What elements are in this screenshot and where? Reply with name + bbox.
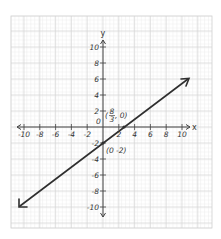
y-tick-label: 4 bbox=[94, 91, 99, 100]
svg-text:3: 3 bbox=[110, 115, 115, 124]
y-axis-label: y bbox=[101, 29, 106, 38]
x-tick-label: 4 bbox=[132, 130, 137, 139]
x-tick-label: 6 bbox=[148, 130, 153, 139]
svg-text:, 0): , 0) bbox=[115, 111, 128, 120]
y-tick-label: 2 bbox=[94, 107, 99, 116]
x-axis-label: x bbox=[192, 123, 197, 132]
y-tick-label: 6 bbox=[94, 75, 99, 84]
y-tick-label: -10 bbox=[87, 203, 99, 212]
y-intercept-label: (0 -2) bbox=[106, 146, 127, 155]
x-tick-label: 8 bbox=[164, 130, 169, 139]
x-tick-label: -10 bbox=[18, 130, 30, 139]
y-tick-label: 8 bbox=[94, 59, 99, 68]
x-intercept-point bbox=[122, 125, 125, 128]
y-tick-label: -4 bbox=[92, 155, 100, 164]
origin-label: 0 bbox=[96, 117, 101, 126]
x-tick-label: -2 bbox=[83, 130, 91, 139]
y-intercept-point bbox=[101, 141, 104, 144]
x-tick-label: 10 bbox=[177, 130, 187, 139]
x-tick-label: -4 bbox=[68, 130, 76, 139]
y-tick-label: 10 bbox=[89, 43, 99, 52]
x-tick-label: -8 bbox=[36, 130, 44, 139]
x-tick-label: -6 bbox=[52, 130, 60, 139]
y-tick-label: -6 bbox=[92, 171, 100, 180]
coordinate-graph: -10-8-6-4-2246810108642-2-4-6-8-10 x y 0… bbox=[0, 0, 221, 239]
y-tick-label: -8 bbox=[92, 187, 100, 196]
